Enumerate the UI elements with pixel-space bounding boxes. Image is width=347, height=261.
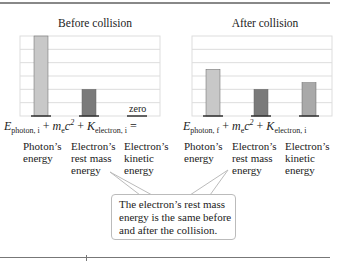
bottom-rule <box>0 257 330 258</box>
callout-pointer-left <box>110 172 152 195</box>
callout-pointer-right <box>190 170 228 195</box>
callout-box: The electron’s rest massenergy is the sa… <box>111 194 236 240</box>
bottom-rule-tick <box>86 255 87 261</box>
